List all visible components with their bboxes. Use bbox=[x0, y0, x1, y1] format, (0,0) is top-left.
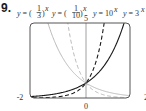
svg-text:y = 10: y = 10 bbox=[92, 9, 113, 18]
label-one-third-x: y = ( 1 3 ) x bbox=[16, 4, 49, 20]
svg-text:y = (: y = ( bbox=[16, 9, 32, 18]
label-ten-x: y = 10 x bbox=[92, 5, 118, 18]
svg-text:3: 3 bbox=[37, 11, 41, 20]
y-tick-label-max: 5 bbox=[84, 14, 88, 23]
label-three-x: y = 3 x bbox=[122, 5, 145, 18]
svg-text:x: x bbox=[82, 4, 87, 13]
x-tick-label-min: -2 bbox=[17, 93, 24, 102]
svg-text:10: 10 bbox=[72, 11, 80, 20]
svg-text:x: x bbox=[44, 4, 49, 13]
x-tick-label-max: 2 bbox=[144, 93, 146, 102]
svg-text:x: x bbox=[113, 5, 118, 14]
svg-text:y = 3: y = 3 bbox=[122, 9, 139, 18]
x-tick-label-zero: 0 bbox=[84, 102, 88, 111]
svg-text:y = (: y = ( bbox=[51, 9, 67, 18]
svg-text:x: x bbox=[140, 5, 145, 14]
chart: -2 0 2 5 y = ( 1 3 ) x y = ( 1 10 ) x y … bbox=[0, 0, 146, 111]
label-one-tenth-x: y = ( 1 10 ) x bbox=[51, 4, 87, 20]
